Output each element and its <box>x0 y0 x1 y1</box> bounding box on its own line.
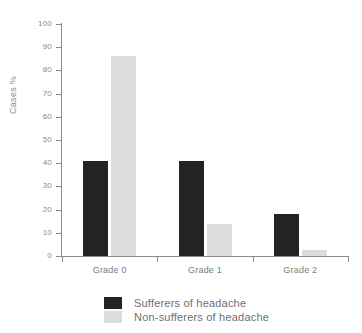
y-axis-tick-label: 80 <box>22 66 52 74</box>
x-axis-tick <box>62 257 63 262</box>
bar <box>111 56 136 256</box>
y-axis-tick-label: 70 <box>22 90 52 98</box>
bar <box>207 224 232 256</box>
legend-item: Sufferers of headache <box>104 296 269 310</box>
y-axis-tick-label: 30 <box>22 182 52 190</box>
y-axis-tick-label: 90 <box>22 43 52 51</box>
legend-item: Non-sufferers of headache <box>104 310 269 324</box>
legend-swatch <box>104 297 122 309</box>
chart-legend: Sufferers of headacheNon-sufferers of he… <box>104 296 269 324</box>
bar <box>83 161 108 256</box>
x-axis-category-label: Grade 2 <box>260 265 340 275</box>
x-axis-tick <box>157 257 158 262</box>
x-axis-category-label: Grade 0 <box>70 265 150 275</box>
x-axis-tick <box>253 257 254 262</box>
bar <box>302 250 327 256</box>
y-axis-tick-label: 100 <box>22 20 52 28</box>
y-axis-tick-label: 50 <box>22 136 52 144</box>
y-axis-tick-label: 0 <box>22 252 52 260</box>
y-axis-title: Cases % <box>8 76 18 114</box>
legend-label: Non-sufferers of headache <box>134 311 269 323</box>
bar <box>179 161 204 256</box>
bar <box>274 214 299 256</box>
y-axis-tick-label: 20 <box>22 206 52 214</box>
y-axis-tick-label: 60 <box>22 113 52 121</box>
x-axis-tick <box>348 257 349 262</box>
plot-area <box>62 24 348 256</box>
y-axis-tick-label: 40 <box>22 159 52 167</box>
legend-label: Sufferers of headache <box>134 297 246 309</box>
legend-swatch <box>104 311 122 323</box>
y-axis-tick-label: 10 <box>22 229 52 237</box>
bar-chart-figure: Cases % 1009080706050403020100 Grade 0Gr… <box>0 0 362 333</box>
x-axis-line <box>61 256 349 257</box>
x-axis-category-label: Grade 1 <box>165 265 245 275</box>
